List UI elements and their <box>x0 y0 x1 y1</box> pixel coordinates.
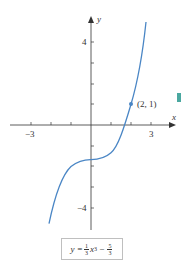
frac1-denominator: 3 <box>85 250 88 256</box>
equation-lhs: y = <box>71 244 83 254</box>
x-tick-label-3: 3 <box>149 129 154 139</box>
frac2-denominator: 3 <box>108 250 111 256</box>
y-tick-label-neg4: −4 <box>77 203 87 213</box>
frac1-numerator: 1 <box>84 243 89 250</box>
equation-box: y = 1 3 x3 − 5 3 <box>61 238 123 260</box>
point-marker <box>129 102 133 106</box>
y-axis-arrow-icon <box>88 16 94 23</box>
equation-fraction-1: 1 3 <box>84 243 89 256</box>
frac2-numerator: 5 <box>107 243 112 250</box>
point-label: (2, 1) <box>137 99 157 109</box>
x-tick-label-neg3: −3 <box>25 129 35 139</box>
function-curve <box>49 22 146 224</box>
x-axis-label: x <box>171 112 176 122</box>
chart-canvas: −3 3 4 −4 x y (2, 1) <box>0 0 181 266</box>
equation-fraction-2: 5 3 <box>107 243 112 256</box>
side-marker <box>177 93 181 102</box>
equation-minus: − <box>97 244 107 254</box>
y-tick-label-4: 4 <box>82 37 87 47</box>
y-axis-label: y <box>96 14 101 24</box>
x-axis-arrow-icon <box>169 122 176 128</box>
